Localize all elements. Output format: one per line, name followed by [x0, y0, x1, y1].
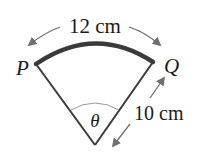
radius-label: 10 cm	[134, 102, 184, 124]
radius-dimension-arrow-bottom	[113, 124, 130, 146]
arc-pq	[36, 43, 153, 64]
radius-left	[36, 64, 95, 145]
angle-theta-label: θ	[90, 110, 99, 131]
arc-length-arrow-left	[29, 27, 60, 45]
angle-arc	[71, 103, 119, 110]
arc-length-label: 12 cm	[69, 14, 121, 38]
radius-dimension-arrow-top	[150, 78, 164, 98]
point-q-label: Q	[164, 54, 179, 78]
sector-diagram: 12 cm P Q θ 10 cm	[0, 0, 211, 158]
arc-length-arrow-right	[129, 27, 160, 45]
point-p-label: P	[15, 56, 29, 80]
